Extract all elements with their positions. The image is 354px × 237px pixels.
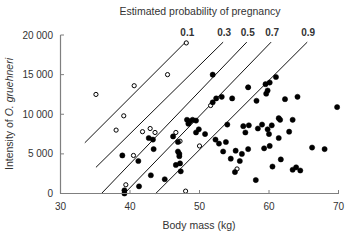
y-axis-label-prefix: Intensity of bbox=[3, 116, 15, 170]
filled-data-point bbox=[214, 96, 219, 101]
filled-data-point bbox=[243, 130, 248, 135]
filled-data-point bbox=[233, 148, 238, 153]
open-data-point bbox=[148, 126, 152, 130]
filled-data-point bbox=[282, 97, 287, 102]
open-data-point bbox=[184, 41, 188, 45]
filled-data-point bbox=[210, 72, 215, 77]
filled-data-point bbox=[322, 147, 327, 152]
filled-data-point bbox=[239, 151, 244, 156]
filled-data-point bbox=[270, 164, 275, 169]
filled-data-point bbox=[267, 143, 272, 148]
open-data-point bbox=[184, 189, 188, 193]
filled-data-point bbox=[162, 177, 167, 182]
probability-labels: 0.10.30.50.70.9 bbox=[180, 27, 315, 38]
x-tick-label: 60 bbox=[263, 201, 275, 212]
filled-data-point bbox=[170, 134, 175, 139]
x-axis-label: Body mass (kg) bbox=[163, 219, 236, 231]
open-data-point bbox=[124, 183, 128, 187]
chart-title: Estimated probability of pregnancy bbox=[119, 5, 281, 17]
filled-data-point bbox=[278, 157, 283, 162]
filled-data-point bbox=[266, 131, 271, 136]
filled-data-point bbox=[202, 131, 207, 136]
probability-line-0.3 bbox=[96, 42, 223, 167]
filled-data-point bbox=[290, 167, 295, 172]
probability-lines bbox=[85, 41, 307, 193]
open-data-point bbox=[122, 114, 126, 118]
probability-label: 0.1 bbox=[180, 27, 194, 38]
filled-data-point bbox=[290, 117, 295, 122]
open-data-point bbox=[197, 144, 201, 148]
filled-data-point bbox=[193, 118, 198, 123]
filled-data-point bbox=[269, 123, 274, 128]
filled-data-point bbox=[225, 122, 230, 127]
y-tick-label: 0 bbox=[47, 188, 53, 199]
filled-data-point bbox=[265, 127, 270, 132]
filled-data-point bbox=[177, 154, 182, 159]
y-tick-label: 5 000 bbox=[28, 148, 53, 159]
filled-data-point bbox=[278, 117, 283, 122]
filled-data-point bbox=[273, 74, 278, 79]
open-data-point bbox=[94, 92, 98, 96]
filled-data-point bbox=[148, 173, 153, 178]
y-tick-label: 15 000 bbox=[22, 69, 53, 80]
filled-data-point bbox=[246, 123, 251, 128]
filled-data-point bbox=[136, 184, 141, 189]
filled-data-point bbox=[150, 137, 155, 142]
filled-data-point bbox=[228, 156, 233, 161]
open-data-point bbox=[140, 130, 144, 134]
filled-data-point bbox=[335, 105, 340, 110]
y-axis-label-species: O. gruehneri bbox=[3, 57, 15, 116]
scatter-chart: Estimated probability of pregnancy 0.10.… bbox=[0, 0, 354, 237]
filled-data-point bbox=[267, 80, 272, 85]
data-points bbox=[94, 41, 340, 196]
filled-data-point bbox=[223, 139, 228, 144]
filled-data-point bbox=[253, 177, 258, 182]
filled-data-point bbox=[173, 162, 178, 167]
filled-data-point bbox=[309, 145, 314, 150]
filled-data-point bbox=[196, 127, 201, 132]
filled-data-point bbox=[184, 117, 189, 122]
filled-data-point bbox=[254, 98, 259, 103]
filled-data-point bbox=[230, 96, 235, 101]
filled-data-point bbox=[265, 88, 270, 93]
open-data-point bbox=[165, 73, 169, 77]
filled-data-point bbox=[237, 158, 242, 163]
filled-data-point bbox=[232, 170, 237, 175]
x-tick-label: 70 bbox=[333, 201, 345, 212]
probability-line-0.1 bbox=[85, 41, 186, 142]
filled-data-point bbox=[136, 158, 141, 163]
filled-data-point bbox=[216, 141, 221, 146]
filled-data-point bbox=[246, 147, 251, 152]
open-data-point bbox=[114, 128, 118, 132]
filled-data-point bbox=[298, 168, 303, 173]
y-tick-label: 10 000 bbox=[22, 109, 53, 120]
y-axis-label: Intensity of O. gruehneri bbox=[3, 57, 15, 170]
filled-data-point bbox=[255, 126, 260, 131]
filled-data-point bbox=[246, 85, 251, 90]
open-data-point bbox=[132, 84, 136, 88]
open-data-point bbox=[131, 153, 135, 157]
y-axis-ticks: 05 00010 00015 00020 000 bbox=[22, 30, 64, 200]
filled-data-point bbox=[287, 129, 292, 134]
filled-data-point bbox=[219, 94, 224, 99]
filled-data-point bbox=[262, 146, 267, 151]
x-tick-label: 50 bbox=[194, 201, 206, 212]
open-data-point bbox=[153, 130, 157, 134]
probability-label: 0.9 bbox=[301, 27, 315, 38]
filled-data-point bbox=[175, 139, 180, 144]
probability-label: 0.7 bbox=[265, 27, 279, 38]
filled-data-point bbox=[241, 124, 246, 129]
x-tick-label: 40 bbox=[124, 201, 136, 212]
filled-data-point bbox=[295, 94, 300, 99]
filled-data-point bbox=[178, 169, 183, 174]
filled-data-point bbox=[120, 153, 125, 158]
filled-data-point bbox=[221, 149, 226, 154]
probability-label: 0.5 bbox=[241, 27, 255, 38]
filled-data-point bbox=[259, 122, 264, 127]
x-tick-label: 30 bbox=[55, 201, 67, 212]
y-tick-label: 20 000 bbox=[22, 30, 53, 41]
probability-label: 0.3 bbox=[217, 27, 231, 38]
filled-data-point bbox=[151, 147, 156, 152]
filled-data-point bbox=[276, 135, 281, 140]
